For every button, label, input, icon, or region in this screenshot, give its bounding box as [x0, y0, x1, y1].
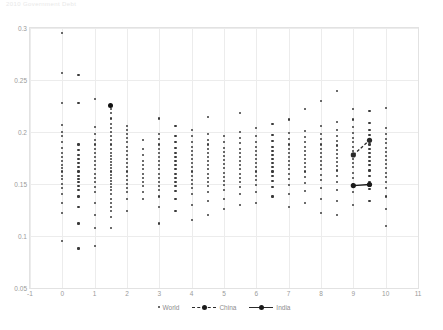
legend-item-china[interactable]: China — [192, 304, 236, 311]
india-line-icon — [249, 304, 273, 310]
x-tick-label: 8 — [319, 290, 323, 297]
x-tick-label: 2 — [125, 290, 129, 297]
data-point-india — [367, 182, 372, 187]
chart-plot-area — [29, 27, 419, 289]
page-title: 2010 Government Debt — [6, 1, 76, 7]
y-tick-label: 0.3 — [18, 25, 27, 32]
x-tick-label: -1 — [27, 290, 33, 297]
scatter-canvas — [30, 28, 418, 288]
x-tick-label: 1 — [93, 290, 97, 297]
x-tick-label: 9 — [352, 290, 356, 297]
y-tick-label: 0.15 — [14, 181, 27, 188]
world-marker-icon — [158, 306, 160, 308]
x-tick-label: 0 — [61, 290, 65, 297]
data-point-india — [351, 183, 356, 188]
legend-label-world: World — [163, 304, 180, 311]
y-tick-label: 0.05 — [14, 285, 27, 292]
data-point-china — [351, 152, 356, 157]
x-tick-label: 11 — [415, 290, 422, 297]
y-tick-label: 0.25 — [14, 77, 27, 84]
x-tick-label: 10 — [382, 290, 389, 297]
y-tick-label: 0.2 — [18, 129, 27, 136]
legend-label-india: India — [276, 304, 290, 311]
y-tick-label: 0.1 — [18, 233, 27, 240]
china-line-icon — [192, 304, 216, 310]
legend-item-india[interactable]: India — [249, 304, 290, 311]
series-lines — [30, 28, 418, 288]
x-tick-label: 7 — [287, 290, 291, 297]
series-line-china — [353, 140, 369, 155]
data-point-china — [367, 138, 372, 143]
x-tick-label: 4 — [190, 290, 194, 297]
x-tick-label: 3 — [158, 290, 162, 297]
legend-item-world[interactable]: World — [158, 304, 180, 311]
legend-label-china: China — [219, 304, 236, 311]
chart-legend: World China India — [29, 300, 419, 314]
x-tick-label: 5 — [222, 290, 226, 297]
x-tick-label: 6 — [255, 290, 259, 297]
y-axis-labels: 0.050.10.150.20.250.3 — [0, 27, 27, 289]
